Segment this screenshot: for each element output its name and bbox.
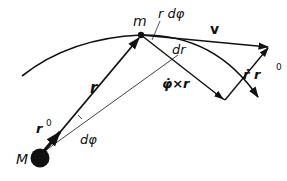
trajectory-curve [22,35,258,97]
label-unit-r0: r [36,121,44,136]
label-m: m [133,13,147,29]
central-mass-dot [31,149,50,168]
tangential-continuation [222,98,225,100]
label-dphi: dφ [80,132,97,147]
label-v: v [210,21,219,37]
rotated-radius-line [42,55,178,153]
angle-tick [78,115,82,119]
label-dr: dr [172,42,187,57]
velocity-diagram: M m r dφ dr v r r 0 dφ φ̇×r ṙ r 0 [0,0,287,181]
label-unit-r0-sup: 0 [46,118,52,128]
moving-mass-dot [138,32,144,38]
label-tangential: φ̇×r [162,76,191,91]
label-M: M [16,151,28,167]
label-radial-sup: 0 [276,62,282,72]
label-radial: ṙ r [243,67,262,82]
velocity-vector-v [141,35,268,47]
label-r-dphi: r dφ [158,6,185,21]
